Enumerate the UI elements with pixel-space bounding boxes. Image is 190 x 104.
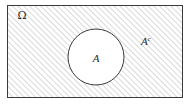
universe-label-omega: Ω xyxy=(17,9,26,22)
venn-diagram-figure: Ω A Ac xyxy=(0,0,190,104)
venn-diagram-canvas: Ω A Ac xyxy=(0,0,190,104)
set-a-label: A xyxy=(92,52,100,64)
